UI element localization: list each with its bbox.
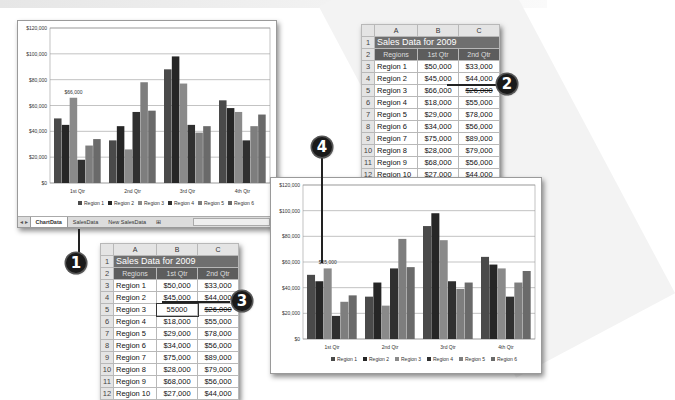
bar-region-1[interactable] [307, 275, 315, 339]
sheet-title-cell[interactable]: Sales Data for 2009 [114, 256, 239, 268]
column-header[interactable]: B [157, 244, 198, 256]
bar-region-5[interactable] [250, 126, 258, 183]
row-header[interactable]: 4 [101, 292, 114, 304]
region-cell[interactable]: Region 1 [375, 61, 418, 73]
row-header[interactable]: 11 [101, 376, 114, 388]
edited-q1-cell[interactable]: 55000 [157, 304, 198, 316]
bar-region-5[interactable] [514, 283, 522, 339]
row-header[interactable]: 6 [101, 316, 114, 328]
header-cell[interactable]: 2nd Qtr [198, 268, 239, 280]
header-cell[interactable]: Regions [375, 49, 418, 61]
q1-cell[interactable]: $28,000 [418, 145, 459, 157]
bar-region-4[interactable] [243, 140, 251, 183]
bar-region-3[interactable] [125, 149, 133, 183]
row-header[interactable]: 2 [101, 268, 114, 280]
q1-cell[interactable]: $75,000 [418, 133, 459, 145]
q2-cell[interactable]: $79,000 [198, 364, 239, 376]
bar-region-2[interactable] [227, 108, 235, 183]
row-header[interactable]: 1 [362, 37, 375, 49]
legend-entry[interactable]: Region 5 [465, 356, 485, 362]
legend-entry[interactable]: Region 2 [114, 200, 134, 206]
bar-region-4[interactable] [78, 160, 86, 183]
bar-region-4[interactable] [448, 281, 456, 339]
q2-cell[interactable]: $26,000 [459, 85, 500, 97]
column-chart-updated[interactable]: $0$20,000$40,000$60,000$80,000$100,000$1… [271, 178, 541, 373]
bar-region-2[interactable] [315, 281, 323, 339]
region-cell[interactable]: Region 3 [375, 85, 418, 97]
header-cell[interactable]: 1st Qtr [418, 49, 459, 61]
row-header[interactable]: 11 [362, 157, 375, 169]
bar-region-3[interactable] [498, 268, 506, 339]
row-header[interactable]: 5 [101, 304, 114, 316]
row-header[interactable]: 9 [101, 352, 114, 364]
bar-region-2[interactable] [489, 265, 497, 339]
region-cell[interactable]: Region 2 [375, 73, 418, 85]
legend-entry[interactable]: Region 1 [84, 200, 104, 206]
bar-region-3[interactable] [324, 268, 332, 339]
bar-region-2[interactable] [431, 213, 439, 339]
q1-cell[interactable]: $18,000 [157, 316, 198, 328]
row-header[interactable]: 7 [101, 328, 114, 340]
row-header[interactable]: 6 [362, 97, 375, 109]
q2-cell[interactable]: $56,000 [459, 157, 500, 169]
column-header[interactable]: A [375, 25, 418, 37]
q1-cell[interactable]: $68,000 [418, 157, 459, 169]
region-cell[interactable]: Region 8 [114, 364, 157, 376]
region-cell[interactable]: Region 2 [114, 292, 157, 304]
header-cell[interactable]: Regions [114, 268, 157, 280]
q2-cell[interactable]: $55,000 [198, 316, 239, 328]
legend-entry[interactable]: Region 1 [337, 356, 357, 362]
q1-cell[interactable]: $18,000 [418, 97, 459, 109]
row-header[interactable]: 9 [362, 133, 375, 145]
q1-cell[interactable]: $29,000 [418, 109, 459, 121]
bar-region-6[interactable] [148, 111, 156, 183]
bar-region-1[interactable] [109, 140, 117, 183]
q2-cell[interactable]: $55,000 [459, 97, 500, 109]
bar-region-5[interactable] [140, 82, 148, 183]
row-header[interactable]: 10 [101, 364, 114, 376]
bar-region-1[interactable] [54, 118, 62, 183]
q1-cell[interactable]: $27,000 [157, 388, 198, 400]
bar-region-5[interactable] [85, 146, 93, 183]
row-header[interactable]: 3 [362, 61, 375, 73]
column-header[interactable]: C [459, 25, 500, 37]
bar-region-1[interactable] [481, 257, 489, 339]
bar-region-1[interactable] [164, 69, 172, 183]
region-cell[interactable]: Region 5 [114, 328, 157, 340]
column-header[interactable]: A [114, 244, 157, 256]
bar-region-1[interactable] [219, 100, 227, 183]
horizontal-scrollbar[interactable] [193, 218, 270, 226]
region-cell[interactable]: Region 7 [114, 352, 157, 364]
bar-region-6[interactable] [203, 126, 211, 183]
header-cell[interactable]: 1st Qtr [157, 268, 198, 280]
q1-cell[interactable]: $28,000 [157, 364, 198, 376]
bar-region-4[interactable] [332, 316, 340, 339]
legend-entry[interactable]: Region 5 [204, 200, 224, 206]
bar-region-3[interactable] [440, 240, 448, 339]
legend-entry[interactable]: Region 2 [369, 356, 389, 362]
row-header[interactable]: 3 [101, 280, 114, 292]
bar-region-6[interactable] [465, 283, 473, 339]
q1-cell[interactable]: $34,000 [418, 121, 459, 133]
q1-cell[interactable]: $45,000 [418, 73, 459, 85]
legend-entry[interactable]: Region 6 [497, 356, 517, 362]
q2-cell[interactable]: $56,000 [459, 121, 500, 133]
bar-region-2[interactable] [172, 56, 180, 183]
bar-region-5[interactable] [340, 302, 348, 339]
edited-q1-cell[interactable]: $66,000 [418, 85, 459, 97]
column-header[interactable]: B [418, 25, 459, 37]
q1-cell[interactable]: $34,000 [157, 340, 198, 352]
region-cell[interactable]: Region 4 [375, 97, 418, 109]
bar-region-3[interactable] [180, 84, 188, 183]
bar-region-6[interactable] [407, 267, 415, 339]
region-cell[interactable]: Region 6 [114, 340, 157, 352]
q2-cell[interactable]: $78,000 [459, 109, 500, 121]
region-cell[interactable]: Region 8 [375, 145, 418, 157]
q1-cell[interactable]: $68,000 [157, 376, 198, 388]
bar-region-5[interactable] [195, 133, 203, 183]
tab-scroll-left-icon[interactable]: ◂ ▸ [18, 219, 30, 225]
legend-entry[interactable]: Region 4 [433, 356, 453, 362]
region-cell[interactable]: Region 4 [114, 316, 157, 328]
header-cell[interactable]: 2nd Qtr [459, 49, 500, 61]
row-header[interactable]: 1 [101, 256, 114, 268]
